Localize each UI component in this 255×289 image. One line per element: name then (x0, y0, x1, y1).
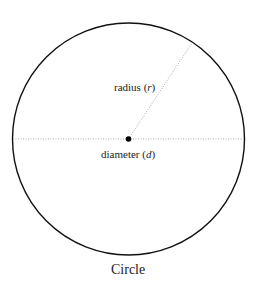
radius-symbol: r (147, 81, 151, 93)
diameter-label: diameter (d) (101, 148, 155, 160)
radius-label: radius (r) (114, 81, 155, 93)
center-point (126, 136, 132, 142)
circle-diagram (0, 0, 255, 289)
diameter-symbol: d (146, 148, 152, 160)
diagram-caption: Circle (111, 262, 145, 278)
diameter-text: diameter (101, 148, 139, 160)
radius-text: radius (114, 81, 141, 93)
